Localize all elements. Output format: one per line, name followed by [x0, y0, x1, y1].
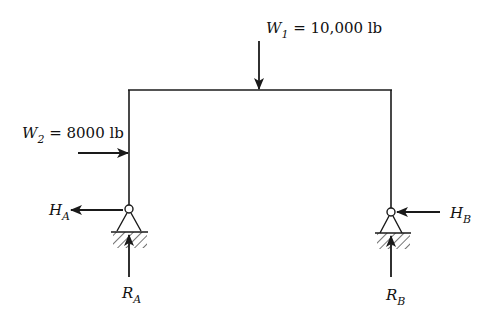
pin-support-b [375, 208, 411, 249]
pin-b-icon [387, 208, 395, 216]
ha-label: HA [48, 201, 70, 223]
ground-hatch-b [377, 233, 410, 249]
w1-label: W1 = 10,000 lb [266, 19, 382, 41]
frame-diagram: W1 = 10,000 lb W2 = 8000 lb HA HB RA RB [0, 0, 495, 322]
w2-label: W2 = 8000 lb [22, 124, 124, 146]
pin-a-icon [125, 205, 133, 213]
ra-label: RA [121, 284, 141, 306]
rb-label: RB [385, 286, 405, 308]
support-triangle-b [380, 216, 402, 233]
support-triangle-a [117, 213, 141, 231]
portal-frame [128, 90, 392, 208]
ground-hatch-a [113, 232, 147, 248]
hb-label: HB [449, 204, 471, 226]
